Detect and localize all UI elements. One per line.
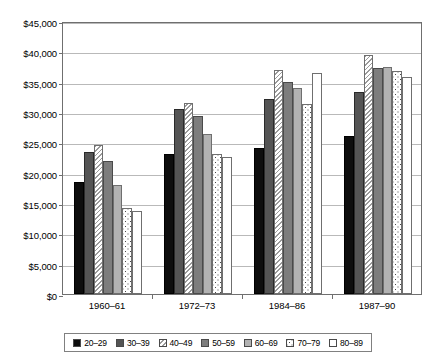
x-axis-label: 1984–86 xyxy=(242,300,332,311)
legend-item[interactable]: 80–89 xyxy=(329,338,363,348)
legend-item[interactable]: 50–59 xyxy=(201,338,235,348)
bar-group xyxy=(333,23,423,294)
y-axis-tick-label: $10,000 xyxy=(23,230,57,241)
x-axis-label: 1960–61 xyxy=(62,300,152,311)
bar xyxy=(264,99,274,294)
bar xyxy=(174,109,184,294)
legend-label: 50–59 xyxy=(212,338,235,348)
y-axis-tick-label: $35,000 xyxy=(23,78,57,89)
bar xyxy=(254,148,264,294)
y-axis-tick-label: $45,000 xyxy=(23,18,57,29)
y-axis-tick-label: $25,000 xyxy=(23,139,57,150)
legend-label: 40–49 xyxy=(170,338,193,348)
y-axis-tick-label: $40,000 xyxy=(23,48,57,59)
y-axis-tick-label: $20,000 xyxy=(23,169,57,180)
bar xyxy=(293,88,303,294)
bar xyxy=(212,154,222,294)
y-axis-tick-label: $15,000 xyxy=(23,200,57,211)
legend-swatch-icon xyxy=(286,339,294,347)
bar xyxy=(373,68,383,294)
bar xyxy=(402,77,412,294)
bar xyxy=(302,104,312,294)
bar xyxy=(274,70,284,294)
bar xyxy=(113,185,123,294)
bar xyxy=(344,136,354,294)
legend-swatch-icon xyxy=(329,339,337,347)
legend-item[interactable]: 40–49 xyxy=(159,338,193,348)
legend-item[interactable]: 20–29 xyxy=(73,338,107,348)
bar xyxy=(312,73,322,294)
y-axis-tick-label: $5,000 xyxy=(29,260,57,271)
bar xyxy=(84,152,94,294)
bar xyxy=(103,161,113,294)
bar xyxy=(354,92,364,294)
y-axis-tick xyxy=(59,296,63,297)
x-axis-label: 1987–90 xyxy=(332,300,422,311)
legend-label: 80–89 xyxy=(340,338,363,348)
x-axis-label: 1972–73 xyxy=(152,300,242,311)
bar xyxy=(184,103,194,294)
x-axis-tick xyxy=(242,295,243,299)
bar-group xyxy=(63,23,153,294)
legend-label: 30–39 xyxy=(127,338,150,348)
legend-item[interactable]: 30–39 xyxy=(116,338,150,348)
bar xyxy=(283,82,293,294)
bar-group xyxy=(153,23,243,294)
legend-swatch-icon xyxy=(159,339,167,347)
y-axis-tick-label: $30,000 xyxy=(23,109,57,120)
bar xyxy=(364,55,374,294)
plot-area: $0$5,000$10,000$15,000$20,000$25,000$30,… xyxy=(62,22,422,295)
x-axis-tick xyxy=(152,295,153,299)
legend-label: 20–29 xyxy=(84,338,107,348)
bar xyxy=(74,182,84,294)
legend-label: 60–69 xyxy=(255,338,278,348)
bar xyxy=(164,154,174,294)
bar-group xyxy=(243,23,333,294)
legend-label: 70–79 xyxy=(297,338,320,348)
bar xyxy=(203,134,213,294)
legend-swatch-icon xyxy=(201,339,209,347)
bar xyxy=(122,208,132,294)
legend-item[interactable]: 60–69 xyxy=(244,338,278,348)
legend-swatch-icon xyxy=(73,339,81,347)
bar xyxy=(132,211,142,294)
bar xyxy=(392,71,402,294)
legend-swatch-icon xyxy=(116,339,124,347)
bar xyxy=(94,145,104,294)
bar xyxy=(193,116,203,294)
legend-swatch-icon xyxy=(244,339,252,347)
y-axis-tick-label: $0 xyxy=(47,291,57,302)
bar xyxy=(222,157,232,294)
bar-chart: $0$5,000$10,000$15,000$20,000$25,000$30,… xyxy=(0,0,436,364)
bar xyxy=(383,67,393,294)
legend-item[interactable]: 70–79 xyxy=(286,338,320,348)
chart-legend: 20–2930–3940–4950–5960–6970–7980–89 xyxy=(64,333,372,352)
x-axis-tick xyxy=(332,295,333,299)
